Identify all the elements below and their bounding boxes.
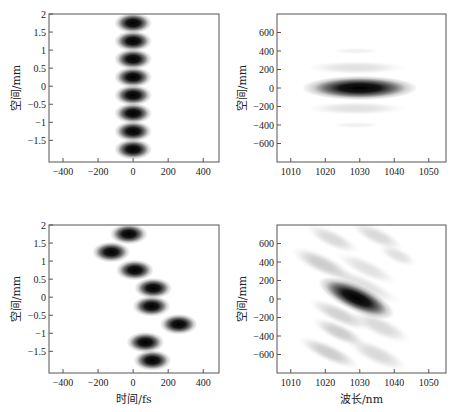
x-tick-label: −200 — [88, 166, 109, 177]
intensity-blob — [134, 278, 172, 299]
y-axis-label: 空间/mm — [235, 275, 249, 322]
intensity-blob — [114, 121, 152, 142]
x-axis-label: 波长/nm — [340, 393, 384, 406]
x-tick-label: 200 — [161, 377, 176, 388]
y-tick-label: 1.5 — [34, 27, 47, 38]
figure: −400−2000200400 21.510.50−0.5−1−1.5 空间/m… — [0, 0, 457, 412]
y-tick-label: 0 — [269, 83, 274, 94]
x-tick-label: 1030 — [350, 377, 370, 388]
intensity-blob — [116, 260, 154, 281]
y-tick-label: 200 — [259, 275, 274, 286]
x-tick-label: 1020 — [315, 166, 335, 177]
y-tick-label: 2 — [41, 220, 46, 231]
intensity-map — [288, 216, 420, 378]
y-tick-label: −600 — [253, 138, 274, 149]
y-tick-label: −600 — [253, 349, 274, 360]
intensity-blob — [92, 242, 130, 263]
y-tick-label: −1.5 — [28, 346, 46, 357]
y-tick-label: 0 — [41, 81, 46, 92]
x-tick-label: −400 — [53, 377, 74, 388]
intensity-blob — [331, 122, 381, 129]
x-axis-ticks: −400−2000200400 — [53, 369, 211, 388]
intensity-blob — [160, 314, 198, 335]
y-tick-label: 0.5 — [34, 63, 47, 74]
x-tick-label: 200 — [161, 166, 176, 177]
intensity-blob — [114, 49, 152, 70]
x-tick-label: −200 — [88, 377, 109, 388]
y-tick-label: 1.5 — [34, 238, 47, 249]
y-tick-label: 0.5 — [34, 274, 47, 285]
y-tick-label: −400 — [253, 331, 274, 342]
x-axis-ticks: 10101020103010401050 — [281, 369, 439, 388]
y-tick-label: 600 — [259, 27, 274, 38]
y-tick-label: 400 — [259, 257, 274, 268]
intensity-blob — [114, 13, 152, 34]
intensity-map — [114, 13, 152, 160]
y-tick-label: −0.5 — [28, 99, 46, 110]
x-tick-label: 0 — [131, 166, 136, 177]
panel-top-left-space-time: −400−2000200400 21.510.50−0.5−1−1.5 空间/m… — [9, 9, 219, 178]
x-tick-label: 1030 — [350, 166, 370, 177]
x-tick-label: 1010 — [281, 166, 301, 177]
intensity-blob — [114, 31, 152, 52]
intensity-blob — [307, 61, 406, 74]
intensity-blob — [331, 48, 381, 55]
intensity-blob — [114, 103, 152, 124]
x-axis-ticks: 10101020103010401050 — [281, 158, 439, 177]
y-axis-label: 空间/mm — [235, 64, 249, 111]
panel-bottom-right-space-wavelength: 10101020103010401050 6004002000−200−400−… — [235, 216, 446, 406]
x-tick-label: 1050 — [419, 377, 439, 388]
y-tick-label: 600 — [259, 238, 274, 249]
intensity-blob — [110, 224, 148, 245]
panel-bottom-left-space-time: −400−2000200400 21.510.50−0.5−1−1.5 空间/m… — [9, 220, 219, 407]
y-tick-label: −200 — [253, 312, 274, 323]
x-axis-label: 时间/fs — [116, 393, 152, 406]
y-tick-label: −1 — [35, 328, 46, 339]
y-axis-label: 空间/mm — [9, 64, 23, 111]
panel-top-right-space-wavelength: 10101020103010401050 6004002000−200−400−… — [235, 14, 446, 177]
intensity-blob — [114, 85, 152, 106]
intensity-blob — [133, 350, 171, 371]
y-tick-label: 400 — [259, 46, 274, 57]
x-axis-ticks: −400−2000200400 — [53, 158, 211, 177]
plot-frame — [49, 225, 219, 373]
y-tick-label: 0 — [269, 294, 274, 305]
x-tick-label: 1020 — [315, 377, 335, 388]
y-tick-label: −1.5 — [28, 135, 46, 146]
y-tick-label: 1 — [41, 256, 46, 267]
x-tick-label: 400 — [196, 377, 211, 388]
y-tick-label: 1 — [41, 45, 46, 56]
y-tick-label: −200 — [253, 101, 274, 112]
x-tick-label: 400 — [196, 166, 211, 177]
y-tick-label: 2 — [41, 9, 46, 20]
x-tick-label: −400 — [53, 166, 74, 177]
intensity-blob — [114, 139, 152, 160]
intensity-map — [92, 224, 197, 371]
x-tick-label: 1040 — [384, 166, 404, 177]
intensity-blob — [302, 76, 418, 100]
y-axis-label: 空间/mm — [9, 275, 23, 322]
intensity-blob — [114, 67, 152, 88]
y-tick-label: −1 — [35, 117, 46, 128]
x-tick-label: 1050 — [419, 166, 439, 177]
intensity-map — [302, 48, 418, 129]
y-tick-label: 0 — [41, 292, 46, 303]
x-tick-label: 1040 — [384, 377, 404, 388]
y-tick-label: −0.5 — [28, 310, 46, 321]
x-tick-label: 0 — [131, 377, 136, 388]
intensity-blob — [133, 296, 171, 317]
y-tick-label: −400 — [253, 120, 274, 131]
y-tick-label: 200 — [259, 64, 274, 75]
x-tick-label: 1010 — [281, 377, 301, 388]
intensity-blob — [126, 332, 164, 353]
intensity-blob — [307, 102, 406, 115]
